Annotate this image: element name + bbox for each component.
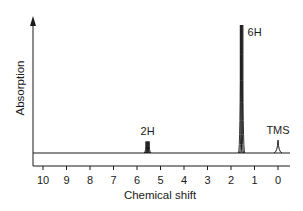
x-tick-label: 5	[157, 174, 163, 186]
nmr-spectrum-chart: 109876543210 2H6HTMS Chemical shift Abso…	[0, 0, 303, 211]
y-axis-arrow-icon	[30, 16, 36, 26]
x-tick-label: 4	[181, 174, 187, 186]
x-tick-label: 8	[87, 174, 93, 186]
x-tick-label: 10	[37, 174, 49, 186]
peak-tms	[274, 140, 282, 153]
x-tick-label: 1	[251, 174, 257, 186]
x-tick-label: 7	[110, 174, 116, 186]
y-axis-title: Absorption	[14, 61, 26, 116]
peak-label-vinyl: 2H	[141, 125, 155, 137]
x-axis-title: Chemical shift	[124, 189, 197, 201]
peaks	[144, 25, 282, 153]
x-tick-label: 6	[134, 174, 140, 186]
x-tick-label: 2	[228, 174, 234, 186]
peak-labels: 2H6HTMS	[141, 26, 290, 137]
peak-label-tms: TMS	[266, 124, 289, 136]
peak-label-methyl: 6H	[248, 26, 262, 38]
x-tick-label: 9	[63, 174, 69, 186]
x-ticks	[43, 166, 278, 170]
peak-vinyl	[144, 141, 151, 153]
x-tick-labels: 109876543210	[37, 174, 281, 186]
x-tick-label: 0	[275, 174, 281, 186]
x-tick-label: 3	[204, 174, 210, 186]
peak-methyl	[238, 25, 244, 153]
